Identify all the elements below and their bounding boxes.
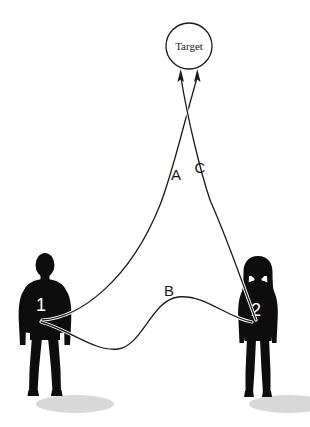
- shadow-figure-1: [36, 395, 114, 413]
- shadow-figure-2: [249, 395, 310, 413]
- figure-2-silhouette[interactable]: [238, 256, 278, 397]
- edge-b[interactable]: [41, 297, 252, 350]
- diagram-canvas: 1 2 Target A C B: [0, 0, 310, 427]
- edge-label-b: B: [164, 282, 174, 299]
- figure-1-number: 1: [36, 295, 46, 315]
- edge-a[interactable]: [42, 69, 201, 320]
- interaction-diagram-svg: 1 2 Target A C B: [0, 0, 310, 427]
- target-label: Target: [175, 40, 203, 52]
- figure-shadows: [36, 395, 310, 413]
- target-node[interactable]: Target: [166, 23, 212, 69]
- edge-label-c: C: [195, 159, 206, 176]
- edge-label-a: A: [171, 166, 181, 183]
